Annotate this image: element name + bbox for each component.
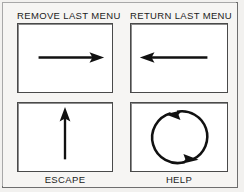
gesture-cell-remove-last-menu: REMOVE LAST MENU — [17, 10, 113, 94]
gesture-label-help: HELP — [130, 174, 228, 185]
gesture-cell-return-last-menu: RETURN LAST MENU — [130, 10, 228, 94]
gesture-label-remove-last-menu: REMOVE LAST MENU — [17, 10, 113, 21]
arrow-left-icon — [131, 24, 227, 92]
gesture-cell-help: HELP — [130, 102, 228, 188]
arrow-up-icon — [18, 103, 112, 171]
gesture-label-escape: ESCAPE — [17, 174, 113, 185]
gesture-box-help — [130, 102, 228, 172]
gesture-box-escape — [17, 102, 113, 172]
circular-arrow-icon — [131, 103, 227, 171]
gesture-reference-figure: REMOVE LAST MENU RETURN LAST MENU ESCAPE — [0, 0, 244, 192]
gesture-label-return-last-menu: RETURN LAST MENU — [130, 10, 228, 21]
gesture-box-remove-last-menu — [17, 23, 113, 93]
gesture-cell-escape: ESCAPE — [17, 102, 113, 188]
gesture-box-return-last-menu — [130, 23, 228, 93]
arrow-right-icon — [18, 24, 112, 92]
